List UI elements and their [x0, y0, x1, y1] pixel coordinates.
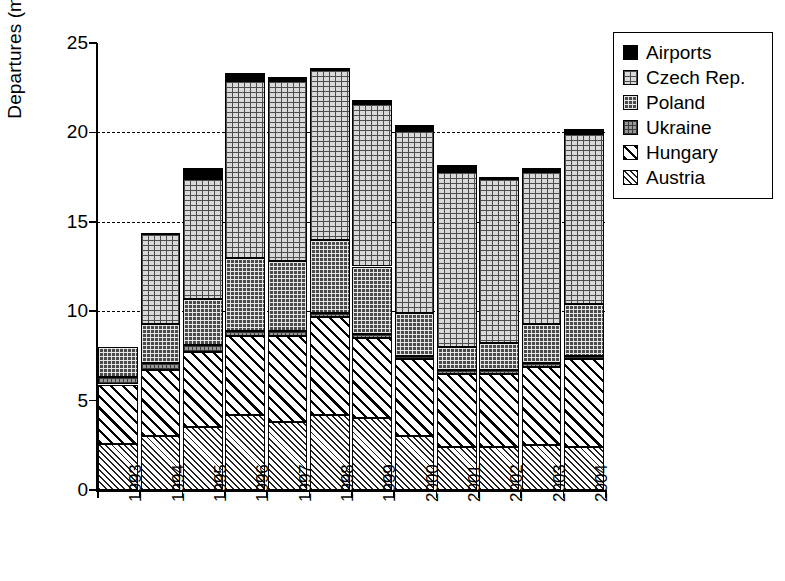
bar-segment-hungary[interactable] — [395, 359, 435, 436]
bar-segment-ukraine[interactable] — [268, 331, 308, 336]
bar-segment-airports[interactable] — [352, 100, 392, 104]
legend-swatch-icon — [623, 145, 638, 160]
bar-segment-ukraine[interactable] — [310, 313, 350, 317]
bar-segment-ukraine[interactable] — [352, 334, 392, 338]
bar-segment-czech-rep[interactable] — [183, 179, 223, 299]
legend-item-poland[interactable]: Poland — [623, 90, 766, 115]
bar-segment-hungary[interactable] — [352, 338, 392, 418]
y-tick-label: 0 — [48, 480, 88, 499]
bar-segment-ukraine[interactable] — [522, 363, 562, 367]
x-tick-label: 2001 — [465, 464, 485, 502]
bar-segment-hungary[interactable] — [98, 385, 138, 444]
bar-segment-czech-rep[interactable] — [268, 81, 308, 262]
bar-segment-airports[interactable] — [225, 73, 265, 80]
bar-segment-poland[interactable] — [395, 313, 435, 356]
bar-2004[interactable] — [564, 43, 604, 490]
bar-segment-czech-rep[interactable] — [395, 131, 435, 313]
bar-segment-poland[interactable] — [98, 347, 138, 377]
bar-segment-ukraine[interactable] — [479, 370, 519, 374]
bar-segment-airports[interactable] — [141, 233, 181, 235]
bar-segment-hungary[interactable] — [479, 374, 519, 447]
x-tick-label: 1997 — [296, 464, 316, 502]
legend-label: Austria — [646, 168, 705, 187]
bar-1995[interactable] — [183, 43, 223, 490]
bar-segment-airports[interactable] — [437, 165, 477, 172]
legend-item-hungary[interactable]: Hungary — [623, 140, 766, 165]
chart-page: Departures (millions) 0510152025 1993199… — [0, 0, 785, 581]
legend-item-ukraine[interactable]: Ukraine — [623, 115, 766, 140]
bar-2003[interactable] — [522, 43, 562, 490]
bar-segment-ukraine[interactable] — [141, 363, 181, 370]
bar-segment-hungary[interactable] — [225, 336, 265, 415]
x-tick-label: 2002 — [507, 464, 527, 502]
bar-segment-czech-rep[interactable] — [225, 81, 265, 258]
y-tick-label: 10 — [48, 301, 88, 320]
bar-segment-airports[interactable] — [310, 68, 350, 70]
bar-segment-poland[interactable] — [225, 258, 265, 331]
bar-segment-poland[interactable] — [310, 240, 350, 313]
bar-segment-czech-rep[interactable] — [352, 104, 392, 267]
bar-segment-poland[interactable] — [141, 324, 181, 363]
bar-2000[interactable] — [395, 43, 435, 490]
legend-label: Ukraine — [646, 118, 711, 137]
bar-segment-czech-rep[interactable] — [479, 179, 519, 343]
legend-item-airports[interactable]: Airports — [623, 40, 766, 65]
bar-segment-hungary[interactable] — [183, 352, 223, 427]
bar-segment-airports[interactable] — [395, 125, 435, 130]
bar-segment-airports[interactable] — [522, 168, 562, 172]
legend-item-czech-rep[interactable]: Czech Rep. — [623, 65, 766, 90]
bar-segment-czech-rep[interactable] — [310, 70, 350, 240]
legend-item-austria[interactable]: Austria — [623, 165, 766, 190]
bar-segment-poland[interactable] — [522, 324, 562, 363]
y-axis-title: Departures (millions) — [4, 0, 26, 150]
legend-swatch-icon — [623, 45, 638, 60]
bar-segment-poland[interactable] — [437, 347, 477, 370]
bar-1997[interactable] — [268, 43, 308, 490]
bar-segment-airports[interactable] — [183, 168, 223, 179]
y-tick — [89, 400, 97, 402]
bar-segment-poland[interactable] — [479, 343, 519, 370]
bar-segment-hungary[interactable] — [437, 374, 477, 447]
x-tick-label: 1994 — [169, 464, 189, 502]
bar-segment-hungary[interactable] — [268, 336, 308, 422]
legend-swatch-icon — [623, 70, 638, 85]
bar-segment-poland[interactable] — [564, 304, 604, 356]
bar-segment-ukraine[interactable] — [437, 370, 477, 374]
bar-segment-ukraine[interactable] — [564, 356, 604, 360]
y-tick — [89, 132, 97, 134]
bar-segment-czech-rep[interactable] — [522, 172, 562, 324]
bar-1998[interactable] — [310, 43, 350, 490]
bar-segment-airports[interactable] — [564, 129, 604, 134]
bar-1996[interactable] — [225, 43, 265, 490]
y-tick-label: 25 — [48, 33, 88, 52]
bar-segment-ukraine[interactable] — [98, 377, 138, 384]
legend-swatch-icon — [623, 95, 638, 110]
bar-1999[interactable] — [352, 43, 392, 490]
bar-segment-hungary[interactable] — [522, 367, 562, 446]
bar-1993[interactable] — [98, 43, 138, 490]
bar-segment-airports[interactable] — [268, 77, 308, 81]
x-tick-label: 1999 — [380, 464, 400, 502]
bar-segment-poland[interactable] — [268, 261, 308, 331]
bar-segment-poland[interactable] — [183, 299, 223, 345]
bar-segment-hungary[interactable] — [141, 370, 181, 436]
bar-2002[interactable] — [479, 43, 519, 490]
bar-1994[interactable] — [141, 43, 181, 490]
bar-segment-czech-rep[interactable] — [141, 234, 181, 323]
bar-segment-ukraine[interactable] — [183, 345, 223, 352]
bar-segment-ukraine[interactable] — [225, 331, 265, 336]
bar-segment-hungary[interactable] — [564, 359, 604, 447]
bar-segment-airports[interactable] — [479, 177, 519, 179]
bar-segment-poland[interactable] — [352, 267, 392, 335]
bar-segment-ukraine[interactable] — [395, 356, 435, 360]
bar-2001[interactable] — [437, 43, 477, 490]
y-axis-line — [96, 43, 98, 491]
y-tick — [89, 221, 97, 223]
bar-segment-czech-rep[interactable] — [564, 134, 604, 304]
x-tick-label: 2004 — [592, 464, 612, 502]
x-tick-label: 1995 — [211, 464, 231, 502]
bar-segment-czech-rep[interactable] — [437, 172, 477, 347]
x-tick-label: 2003 — [550, 464, 570, 502]
x-tick-label: 1996 — [253, 464, 273, 502]
bar-segment-hungary[interactable] — [310, 317, 350, 415]
